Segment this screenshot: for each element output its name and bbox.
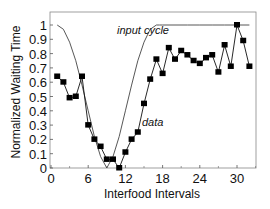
- data-marker: [240, 38, 246, 44]
- data-marker: [141, 101, 147, 107]
- y-tick-label: 0.5: [29, 90, 47, 105]
- data-marker: [178, 48, 184, 54]
- data-marker: [184, 52, 190, 58]
- x-tick-label: 0: [47, 171, 54, 186]
- y-axis: 00.10.20.30.40.50.60.70.80.91: [29, 18, 53, 176]
- annotation-data: data: [142, 116, 163, 128]
- data-marker: [122, 149, 128, 155]
- x-tick-label: 24: [193, 171, 207, 186]
- data-marker: [228, 63, 234, 69]
- series-input-cycle: [57, 25, 249, 168]
- chart: 00.10.20.30.40.50.60.70.80.91 0612182430…: [0, 0, 270, 209]
- data-marker: [197, 61, 203, 67]
- y-tick-label: 0.1: [29, 147, 47, 162]
- y-tick-label: 0: [40, 161, 47, 176]
- data-marker: [79, 73, 85, 79]
- series-layer: [54, 22, 252, 171]
- data-marker: [191, 58, 197, 64]
- y-tick-label: 0.2: [29, 132, 47, 147]
- data-marker: [60, 79, 66, 85]
- data-marker: [222, 42, 228, 48]
- x-axis-title: Interfood Intervals: [104, 187, 200, 201]
- y-tick-label: 0.9: [29, 32, 47, 47]
- data-marker: [129, 136, 135, 142]
- data-marker: [246, 63, 252, 69]
- data-marker: [234, 22, 240, 28]
- data-marker: [215, 69, 221, 75]
- data-marker: [110, 156, 116, 162]
- y-tick-label: 0.6: [29, 75, 47, 90]
- data-marker: [73, 94, 79, 100]
- y-axis-title: Normalized Waiting Time: [9, 25, 23, 158]
- data-marker: [85, 122, 91, 128]
- y-tick-label: 0.8: [29, 47, 47, 62]
- x-tick-label: 18: [155, 171, 169, 186]
- data-marker: [104, 156, 110, 162]
- data-marker: [209, 52, 215, 58]
- data-marker: [160, 71, 166, 77]
- data-marker: [135, 129, 141, 135]
- x-tick-label: 12: [118, 171, 132, 186]
- data-marker: [116, 165, 122, 171]
- data-marker: [166, 45, 172, 51]
- y-tick-label: 0.7: [29, 61, 47, 76]
- data-marker: [67, 95, 73, 101]
- x-tick-label: 6: [85, 171, 92, 186]
- data-marker: [147, 76, 153, 82]
- data-marker: [203, 55, 209, 61]
- data-marker: [54, 73, 60, 79]
- x-tick-label: 30: [230, 171, 244, 186]
- data-marker: [91, 136, 97, 142]
- y-tick-label: 0.4: [29, 104, 47, 119]
- series-data: [57, 25, 249, 168]
- annotation-input-cycle: input cycle: [117, 24, 169, 36]
- y-tick-label: 1: [40, 18, 47, 33]
- y-tick-label: 0.3: [29, 118, 47, 133]
- data-marker: [98, 144, 104, 150]
- data-marker: [153, 56, 159, 62]
- data-marker: [172, 56, 178, 62]
